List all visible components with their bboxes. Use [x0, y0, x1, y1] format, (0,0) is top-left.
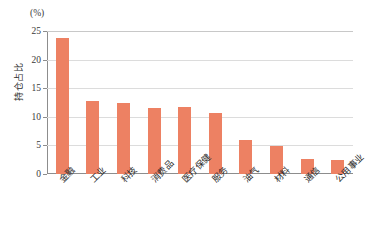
y-tick-label: 10: [32, 112, 42, 122]
y-tick-label: 20: [32, 55, 42, 65]
bar[interactable]: [56, 38, 69, 174]
bar[interactable]: [117, 103, 130, 174]
y-axis-title: 持仓占比: [12, 52, 25, 112]
x-axis-labels: 金融工业科技消费品医疗保健服务油气材料通信公用事业: [47, 176, 353, 231]
y-tick-label: 0: [36, 169, 41, 179]
y-tick-label: 15: [32, 83, 42, 93]
plot-area: 0510152025: [47, 31, 353, 174]
bars: [47, 31, 353, 174]
bar[interactable]: [86, 101, 99, 174]
bar-chart: (%) 持仓占比 0510152025 金融工业科技消费品医疗保健服务油气材料通…: [0, 0, 368, 231]
y-axis-unit-label: (%): [30, 8, 44, 18]
y-tick-label: 5: [36, 140, 41, 150]
y-tick-mark: [43, 174, 47, 175]
y-tick-label: 25: [32, 26, 42, 36]
